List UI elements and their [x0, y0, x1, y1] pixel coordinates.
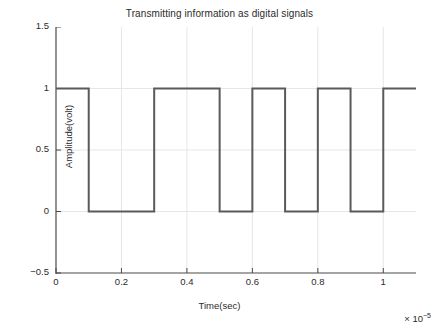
chart-title: Transmitting information as digital sign… [0, 8, 439, 19]
x-tick-label: 0 [36, 276, 76, 287]
x-tick-label: 0.8 [298, 276, 338, 287]
y-tick-label: 0 [3, 205, 49, 216]
x-tick-label: 1 [363, 276, 403, 287]
exponent-power: −5 [423, 312, 431, 319]
x-axis-label: Time(sec) [0, 300, 439, 311]
y-tick-label: 0.5 [3, 143, 49, 154]
signal-plot [55, 27, 416, 274]
plot-area: Amplitude(volt) 1.510.50−0.500.20.40.60.… [55, 27, 416, 274]
figure-container: Transmitting information as digital sign… [0, 0, 439, 334]
x-axis-exponent: × 10−5 [404, 312, 431, 324]
y-tick-label: 1.5 [3, 20, 49, 31]
y-axis-label: Amplitude(volt) [63, 77, 74, 197]
x-tick-label: 0.2 [101, 276, 141, 287]
x-tick-label: 0.6 [232, 276, 272, 287]
y-tick-label: 1 [3, 82, 49, 93]
grid-lines [56, 27, 416, 273]
exponent-prefix: × 10 [404, 313, 423, 324]
x-tick-label: 0.4 [167, 276, 207, 287]
